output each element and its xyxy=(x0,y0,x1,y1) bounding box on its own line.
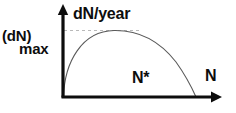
dn-per-year-curve xyxy=(64,30,197,97)
dn-per-year-vs-n-figure: dN/year (dN) max N* N xyxy=(0,0,236,113)
arrow-right-icon xyxy=(211,92,222,103)
y-max-label-group: (dN) max xyxy=(2,28,60,56)
peak-marker-label: N* xyxy=(132,70,149,86)
arrow-up-icon xyxy=(58,4,68,15)
y-axis-label: dN/year xyxy=(73,6,130,22)
x-axis-label: N xyxy=(205,68,216,84)
y-max-label-subscript: max xyxy=(19,41,48,56)
